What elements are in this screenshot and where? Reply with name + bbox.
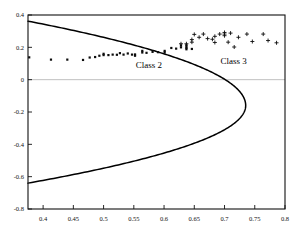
data-point: [213, 40, 217, 44]
annotation-label: Class 3: [220, 56, 247, 66]
y-tick-label: -0.2: [14, 108, 24, 115]
data-point: [191, 48, 193, 50]
series-class-3: [179, 30, 279, 49]
data-point: [170, 47, 172, 49]
data-point: [210, 37, 214, 41]
data-point: [145, 52, 147, 54]
x-tick-label: 0.6: [160, 215, 169, 222]
data-point: [275, 41, 279, 45]
data-point: [82, 59, 84, 61]
data-point: [102, 53, 104, 55]
x-tick-label: 0.45: [68, 215, 79, 222]
x-axis-ticks: 0.40.450.50.550.60.650.70.750.8: [39, 205, 289, 222]
data-point: [122, 54, 124, 56]
annotation-label: Class 2: [136, 60, 162, 70]
data-point: [66, 59, 68, 61]
data-point: [190, 38, 194, 42]
decision-boundary-curve: [28, 21, 246, 183]
data-point: [245, 32, 249, 36]
decision-boundary-group: [28, 21, 246, 183]
x-tick-label: 0.7: [220, 215, 229, 222]
data-point: [157, 51, 159, 53]
data-point: [127, 52, 129, 54]
x-tick-label: 0.75: [249, 215, 260, 222]
data-point: [192, 32, 196, 36]
data-point: [201, 32, 205, 36]
data-point: [226, 40, 230, 44]
data-point: [197, 35, 201, 39]
data-point: [116, 54, 118, 56]
chart-canvas: 0.40.450.50.550.60.650.70.750.8 0.40.20-…: [0, 0, 299, 235]
data-point: [175, 48, 177, 50]
data-point: [107, 54, 109, 56]
data-point: [89, 56, 91, 58]
data-point: [232, 45, 236, 49]
y-tick-label: 0.4: [16, 11, 25, 18]
data-point: [184, 42, 188, 46]
data-point: [261, 32, 265, 36]
series-class-2: [28, 44, 193, 61]
y-tick-label: 0: [21, 76, 24, 83]
data-point: [134, 55, 136, 57]
data-point: [112, 54, 114, 56]
data-point: [213, 34, 217, 38]
x-tick-label: 0.55: [128, 215, 139, 222]
x-tick-label: 0.4: [39, 215, 48, 222]
x-tick-label: 0.8: [281, 215, 289, 222]
data-point: [250, 40, 254, 44]
data-point: [266, 39, 270, 43]
data-point: [229, 31, 233, 35]
data-point: [179, 42, 183, 46]
data-point: [218, 32, 222, 36]
data-point: [236, 35, 240, 39]
data-point: [141, 51, 143, 53]
data-point: [94, 56, 96, 58]
x-tick-label: 0.65: [189, 215, 200, 222]
data-point: [151, 51, 153, 53]
data-point: [98, 55, 100, 57]
data-point: [50, 59, 52, 61]
data-point: [131, 54, 133, 56]
data-point: [180, 46, 182, 48]
y-tick-label: -0.8: [14, 205, 24, 212]
x-tick-label: 0.5: [100, 215, 108, 222]
data-point: [164, 50, 166, 52]
scatter-plot-figure: 0.40.450.50.550.60.650.70.750.8 0.40.20-…: [0, 0, 299, 235]
y-tick-label: -0.6: [14, 173, 25, 180]
axes-frame: [28, 15, 285, 209]
y-tick-label: 0.2: [16, 44, 24, 51]
data-point: [206, 37, 210, 41]
y-tick-label: -0.4: [14, 141, 25, 148]
data-point: [119, 52, 121, 54]
